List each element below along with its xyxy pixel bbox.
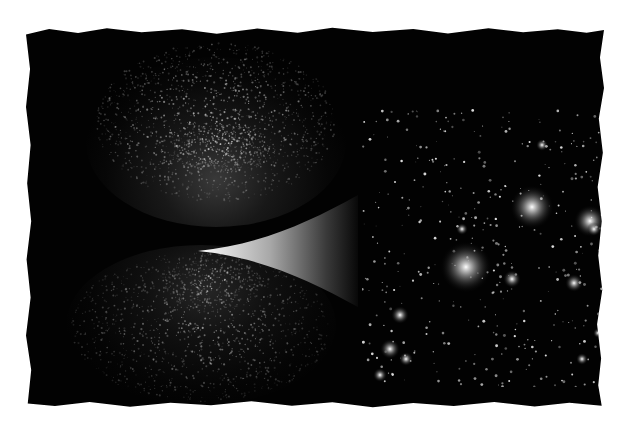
torn-paper-frame [26, 27, 604, 408]
galaxy-cluster-panel [362, 109, 624, 387]
zoom-funnel [198, 195, 358, 307]
